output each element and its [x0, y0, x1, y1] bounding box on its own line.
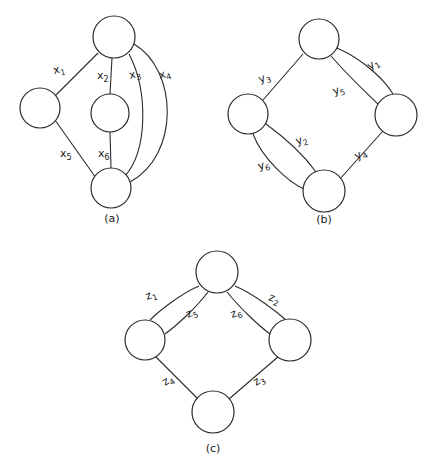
- graph-b: y1 y2 y3 y4 y5 y6 (b): [228, 19, 417, 226]
- node-a-middle[interactable]: [91, 94, 129, 132]
- node-b-top[interactable]: [299, 19, 339, 59]
- graph-a: x1 x2 x3 x4 x5 x6 (a): [20, 16, 173, 225]
- edge-x1-label: x1: [52, 62, 66, 79]
- edge-x2-label: x2: [97, 69, 109, 84]
- node-a-left[interactable]: [20, 88, 60, 128]
- node-c-right[interactable]: [269, 319, 311, 361]
- graph-c: z1 z2 z3 z4 z5 z6 (c): [125, 251, 311, 455]
- node-c-top[interactable]: [196, 251, 238, 293]
- edge-z3-label: z3: [251, 372, 268, 390]
- edge-z1-label: z1: [144, 287, 159, 305]
- caption-b: (b): [316, 213, 332, 226]
- node-a-bottom[interactable]: [91, 168, 131, 208]
- edge-y5-label: y5: [331, 82, 347, 100]
- edge-x6-path: [110, 132, 111, 168]
- node-b-left[interactable]: [228, 94, 268, 134]
- edge-x4-label: x4: [157, 66, 172, 84]
- edge-z5-label: z5: [184, 304, 200, 322]
- edge-x2-path: [110, 58, 112, 94]
- node-c-left[interactable]: [125, 320, 165, 360]
- node-a-top[interactable]: [93, 16, 135, 58]
- node-b-bottom[interactable]: [303, 170, 345, 212]
- edge-x6-label: x6: [98, 147, 110, 162]
- edge-z6-label: z6: [229, 305, 244, 323]
- edge-x5-label: x5: [60, 147, 72, 162]
- edge-y3-label: y3: [257, 70, 273, 88]
- caption-c: (c): [206, 442, 221, 455]
- caption-a: (a): [104, 212, 119, 225]
- node-c-bottom[interactable]: [192, 391, 234, 433]
- edge-x4-path: [130, 44, 167, 182]
- node-b-right[interactable]: [375, 94, 417, 136]
- multigraph-figure: x1 x2 x3 x4 x5 x6 (a) y1 y2 y3 y4 y5 y6 …: [0, 0, 429, 465]
- edge-y2-label: y2: [294, 132, 310, 150]
